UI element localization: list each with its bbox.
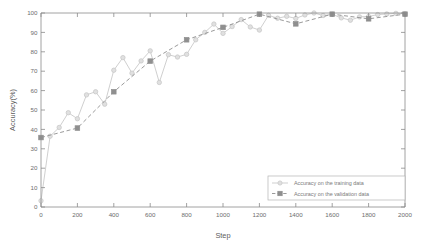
y-tick-label: 100 bbox=[27, 9, 38, 16]
data-point bbox=[184, 37, 189, 42]
data-point bbox=[357, 15, 361, 19]
data-point bbox=[194, 38, 198, 42]
data-point bbox=[285, 14, 289, 18]
data-point bbox=[84, 93, 88, 97]
data-point bbox=[112, 68, 116, 72]
y-tick-label: 90 bbox=[31, 29, 38, 36]
y-tick-label: 50 bbox=[31, 106, 38, 113]
data-point bbox=[221, 25, 226, 30]
y-tick-label: 0 bbox=[34, 203, 38, 210]
accuracy-line-chart: 0200400600800100012001400160018002000010… bbox=[0, 0, 423, 243]
data-point bbox=[248, 25, 252, 29]
data-point bbox=[348, 18, 352, 22]
data-point bbox=[121, 55, 125, 59]
x-tick-label: 1000 bbox=[216, 211, 230, 218]
y-tick-label: 40 bbox=[31, 126, 38, 133]
data-point bbox=[148, 59, 153, 64]
chart-legend[interactable]: Accuracy on the training dataAccuracy on… bbox=[268, 176, 405, 200]
data-point bbox=[366, 17, 371, 22]
data-point bbox=[75, 126, 80, 131]
y-tick-label: 30 bbox=[31, 145, 38, 152]
data-point bbox=[166, 53, 170, 57]
x-tick-label: 200 bbox=[72, 211, 83, 218]
x-tick-label: 800 bbox=[181, 211, 192, 218]
data-point bbox=[57, 125, 61, 129]
legend-label: Accuracy on the validation data bbox=[294, 191, 369, 197]
x-tick-label: 1200 bbox=[253, 211, 267, 218]
x-tick-label: 1800 bbox=[362, 211, 376, 218]
legend-sample-marker bbox=[278, 181, 282, 185]
y-tick-label: 60 bbox=[31, 87, 38, 94]
x-tick-label: 0 bbox=[39, 211, 43, 218]
data-point bbox=[212, 22, 216, 26]
data-point bbox=[112, 89, 117, 94]
y-tick-label: 20 bbox=[31, 164, 38, 171]
data-point bbox=[157, 80, 161, 84]
data-point bbox=[75, 117, 79, 121]
y-tick-label: 70 bbox=[31, 67, 38, 74]
y-tick-label: 10 bbox=[31, 184, 38, 191]
y-axis-title: Accuracy(%) bbox=[8, 89, 17, 131]
data-point bbox=[257, 28, 261, 32]
data-point bbox=[139, 59, 143, 63]
data-point bbox=[148, 49, 152, 53]
data-point bbox=[175, 55, 179, 59]
data-point bbox=[339, 16, 343, 20]
chart-figure: 0200400600800100012001400160018002000010… bbox=[0, 0, 423, 243]
x-tick-label: 400 bbox=[109, 211, 120, 218]
legend-sample-marker bbox=[278, 191, 282, 195]
x-tick-label: 1600 bbox=[325, 211, 339, 218]
data-point bbox=[221, 31, 225, 35]
data-point bbox=[184, 52, 188, 56]
y-tick-label: 80 bbox=[31, 48, 38, 55]
x-axis-title: Step bbox=[215, 231, 230, 240]
x-tick-label: 1400 bbox=[289, 211, 303, 218]
data-point bbox=[203, 30, 207, 34]
legend-label: Accuracy on the training data bbox=[294, 180, 364, 186]
x-tick-label: 600 bbox=[145, 211, 156, 218]
x-tick-label: 2000 bbox=[398, 211, 412, 218]
data-point bbox=[239, 17, 243, 21]
data-point bbox=[93, 90, 97, 94]
data-point bbox=[66, 111, 70, 115]
data-point bbox=[385, 12, 389, 16]
data-point bbox=[294, 22, 299, 27]
data-point bbox=[48, 134, 52, 138]
